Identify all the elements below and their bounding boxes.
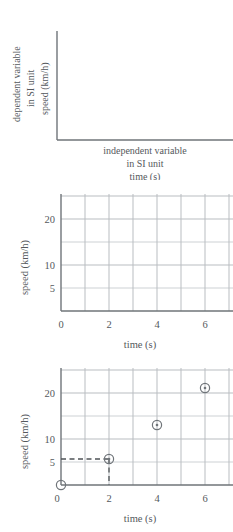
x-tick-label-4: 4 bbox=[154, 493, 160, 504]
x-axis-label-in-si-unit: in SI unit bbox=[126, 158, 163, 169]
x-tick-label-6: 6 bbox=[202, 319, 207, 330]
y-tick-label-10: 10 bbox=[45, 260, 56, 271]
x-tick-label-4: 4 bbox=[154, 319, 160, 330]
x-tick-label-0: 0 bbox=[58, 319, 63, 330]
y-axis-label-speed-unit: speed (km/h) bbox=[39, 63, 51, 116]
x-tick-label-2: 2 bbox=[106, 319, 111, 330]
y-axis-label-dependent-variable: dependent variable bbox=[11, 46, 22, 122]
x-tick-label-2: 2 bbox=[106, 493, 111, 504]
vertical-gridlines bbox=[85, 194, 229, 311]
y-tick-label-10: 10 bbox=[45, 434, 56, 445]
x-tick-label-6: 6 bbox=[202, 493, 207, 504]
x-axis-title: time (s) bbox=[124, 513, 157, 525]
y-tick-label-5: 5 bbox=[50, 457, 55, 468]
empty-grid-plot: 20 10 5 0 2 4 6 speed (km/h) time (s) bbox=[0, 180, 233, 358]
x-tick-label-0: 0 bbox=[54, 493, 59, 504]
vertical-gridlines bbox=[85, 368, 229, 485]
y-tick-label-20: 20 bbox=[45, 214, 56, 225]
y-axis-title: speed (km/h) bbox=[19, 413, 31, 469]
empty-grid-panel: 20 10 5 0 2 4 6 speed (km/h) time (s) bbox=[0, 180, 233, 358]
y-tick-label-20: 20 bbox=[45, 388, 56, 399]
x-axis-title: time (s) bbox=[124, 339, 157, 351]
x-axis-label-independent-variable: independent variable bbox=[103, 145, 187, 156]
horizontal-gridlines bbox=[61, 196, 233, 288]
x-axis-label-time-unit: time (s) bbox=[130, 171, 161, 180]
speed-vs-time-panel: 20 10 5 0 2 4 6 speed (km/h) time (s) bbox=[0, 356, 233, 532]
y-axis-title: speed (km/h) bbox=[19, 239, 31, 295]
y-axis-label-in-si-unit: in SI unit bbox=[25, 70, 36, 107]
generic-axes-panel: dependent variable in SI unit speed (km/… bbox=[0, 0, 233, 180]
y-tick-label-5: 5 bbox=[50, 283, 55, 294]
speed-vs-time-plot: 20 10 5 0 2 4 6 speed (km/h) time (s) bbox=[0, 356, 233, 532]
generic-axes-plot: dependent variable in SI unit speed (km/… bbox=[0, 0, 233, 180]
